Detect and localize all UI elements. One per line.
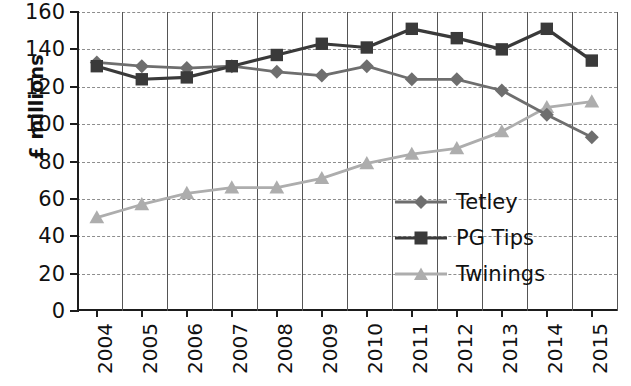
- data-point: [406, 23, 418, 35]
- data-point: [541, 23, 553, 35]
- plot-area: 020406080100120140160 200420052006200720…: [77, 12, 617, 311]
- y-tick-label: 80: [38, 149, 65, 173]
- data-point: [316, 38, 328, 50]
- x-tick-label: 2015: [588, 323, 612, 374]
- gridline: [617, 12, 618, 311]
- data-point: [451, 32, 463, 44]
- legend-label-pg-tips: PG Tips: [456, 226, 534, 250]
- data-point: [585, 130, 599, 144]
- data-point: [405, 72, 419, 86]
- x-tick-label: 2007: [228, 323, 252, 374]
- data-point: [135, 59, 149, 73]
- data-point: [586, 54, 598, 66]
- data-point: [181, 71, 193, 83]
- y-tick-label: 20: [38, 261, 65, 285]
- legend-label-twinings: Twinings: [456, 262, 545, 286]
- legend-item-tetley: Tetley: [395, 190, 545, 214]
- y-tick-label: 60: [38, 186, 65, 210]
- series-line-tetley: [97, 62, 592, 137]
- x-tick-label: 2011: [408, 323, 432, 374]
- data-point: [271, 49, 283, 61]
- legend-item-twinings: Twinings: [395, 262, 545, 286]
- y-tick-label: 140: [25, 37, 65, 61]
- data-point: [496, 43, 508, 55]
- y-tick-label: 0: [52, 299, 65, 323]
- data-point: [584, 94, 599, 107]
- y-tick-label: 160: [25, 0, 65, 24]
- data-point: [91, 60, 103, 72]
- data-point: [361, 41, 373, 53]
- x-tick-label: 2014: [543, 323, 567, 374]
- data-point: [495, 83, 509, 97]
- data-point: [360, 59, 374, 73]
- x-tick-label: 2010: [363, 323, 387, 374]
- y-tick-label: 120: [25, 74, 65, 98]
- x-tick-label: 2013: [498, 323, 522, 374]
- legend-marker-triangle-icon: [395, 264, 447, 284]
- x-tick-label: 2006: [183, 323, 207, 374]
- data-point: [270, 65, 284, 79]
- x-tick-label: 2005: [138, 323, 162, 374]
- x-tick-label: 2009: [318, 323, 342, 374]
- legend-item-pg-tips: PG Tips: [395, 226, 545, 250]
- data-point: [136, 73, 148, 85]
- legend-label-tetley: Tetley: [456, 190, 518, 214]
- legend-marker-square-icon: [395, 228, 447, 248]
- y-tick-label: 40: [38, 224, 65, 248]
- data-point: [315, 69, 329, 83]
- x-tick-label: 2004: [93, 323, 117, 374]
- data-point: [226, 60, 238, 72]
- data-point: [450, 72, 464, 86]
- x-tick-label: 2012: [453, 323, 477, 374]
- legend-marker-diamond-icon: [395, 192, 447, 212]
- line-chart: £ millions 020406080100120140160 2004200…: [0, 0, 631, 386]
- data-point: [494, 124, 509, 137]
- y-tick-label: 100: [25, 112, 65, 136]
- x-tick-label: 2008: [273, 323, 297, 374]
- chart-legend: Tetley PG Tips: [395, 190, 545, 286]
